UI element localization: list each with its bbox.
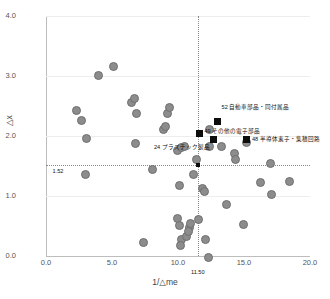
data-point-circle (194, 215, 203, 224)
data-point-circle (175, 221, 184, 230)
data-point-circle (72, 106, 81, 115)
x-tick-label: 10.0 (158, 259, 198, 267)
x-axis-line (46, 256, 310, 257)
data-point-circle (148, 165, 157, 174)
annotation-label: 11.50 (191, 270, 205, 276)
y-tick-label: 4.0 (0, 12, 16, 20)
data-point-circle (231, 155, 240, 164)
data-point-circle (94, 71, 103, 80)
data-point-circle (139, 238, 148, 247)
data-point-circle (161, 122, 170, 131)
y-tick-label: 3.0 (0, 72, 16, 80)
x-tick-label: 5.0 (92, 259, 132, 267)
gridline (46, 76, 310, 77)
data-point-circle (256, 178, 265, 187)
data-point-circle (200, 187, 209, 196)
data-point-circle (217, 142, 226, 151)
data-point-circle (201, 235, 210, 244)
x-tick-label: 0.0 (26, 259, 66, 267)
data-point-circle (165, 103, 174, 112)
annotation-label: 1.52 (53, 169, 64, 175)
data-point-circle (266, 159, 275, 168)
annotation-label: 49 その他の電子部品 (204, 129, 260, 135)
x-tick-label: 15.0 (224, 259, 264, 267)
data-point-square (210, 136, 217, 143)
data-point-circle (239, 220, 248, 229)
scatter-chart: △x 1/△me 52 自動車部品・同付属品49 その他の電子部品24 プラスチ… (0, 0, 330, 299)
data-point-circle (267, 190, 276, 199)
data-point-circle (189, 170, 198, 179)
data-point-circle (109, 62, 118, 71)
annotation-label: 52 自動車部品・同付属品 (222, 105, 290, 111)
data-point-circle (130, 94, 139, 103)
data-point-square (196, 130, 203, 137)
data-point-circle (222, 200, 231, 209)
y-tick-label: 2.0 (0, 132, 16, 140)
data-point-circle (77, 116, 86, 125)
data-point-circle (132, 109, 141, 118)
annotation-label: 24 プラスチック製品 (154, 145, 210, 151)
y-axis-title: △x (4, 115, 14, 126)
data-point-circle (285, 177, 294, 186)
data-point-circle (204, 253, 213, 262)
y-tick-label: 1.0 (0, 192, 16, 200)
data-point-circle (176, 241, 185, 250)
data-point-circle (82, 134, 91, 143)
data-point-circle (131, 139, 140, 148)
data-point-square (214, 118, 221, 125)
gridline (46, 16, 310, 17)
data-point-circle (184, 227, 193, 236)
threshold-marker (196, 163, 200, 167)
data-point-circle (175, 181, 184, 190)
x-tick-label: 20.0 (290, 259, 330, 267)
data-point-square (243, 136, 250, 143)
annotation-label: 48 半導体素子・集積回路 (252, 137, 320, 143)
x-axis-title: 1/△me (0, 277, 330, 287)
y-tick-label: 0.0 (0, 252, 16, 260)
data-point-circle (81, 170, 90, 179)
plot-area: 52 自動車部品・同付属品49 その他の電子部品24 プラスチック製品48 半導… (46, 16, 310, 256)
